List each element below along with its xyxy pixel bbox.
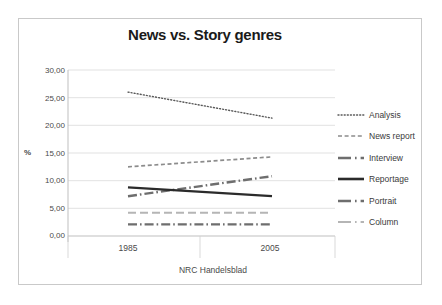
legend-item-column[interactable]: Column [337, 212, 432, 234]
legend-label: News report [367, 131, 415, 141]
legend-label: Column [367, 217, 398, 227]
legend-item-news-report[interactable]: News report [337, 126, 432, 148]
legend-label: Analysis [367, 110, 401, 120]
legend-item-analysis[interactable]: Analysis [337, 104, 432, 126]
legend-key-analysis-icon [337, 110, 367, 120]
legend-key-column-icon [337, 217, 367, 227]
series-line-news-report [128, 157, 272, 167]
series-line-reportage [128, 187, 272, 196]
chart-legend: Analysis News report Interview Reportage… [337, 104, 432, 233]
series-line-analysis [128, 92, 272, 118]
legend-label: Reportage [367, 174, 409, 184]
legend-key-portrait-icon [337, 196, 367, 206]
legend-item-interview[interactable]: Interview [337, 147, 432, 169]
legend-key-news-report-icon [337, 131, 367, 141]
series-line-interview [128, 176, 272, 196]
gridlines [68, 70, 335, 208]
legend-key-reportage-icon [337, 174, 367, 184]
legend-item-portrait[interactable]: Portrait [337, 190, 432, 212]
legend-key-interview-icon [337, 153, 367, 163]
legend-item-reportage[interactable]: Reportage [337, 169, 432, 191]
legend-label: Portrait [367, 196, 396, 206]
legend-label: Interview [367, 153, 403, 163]
